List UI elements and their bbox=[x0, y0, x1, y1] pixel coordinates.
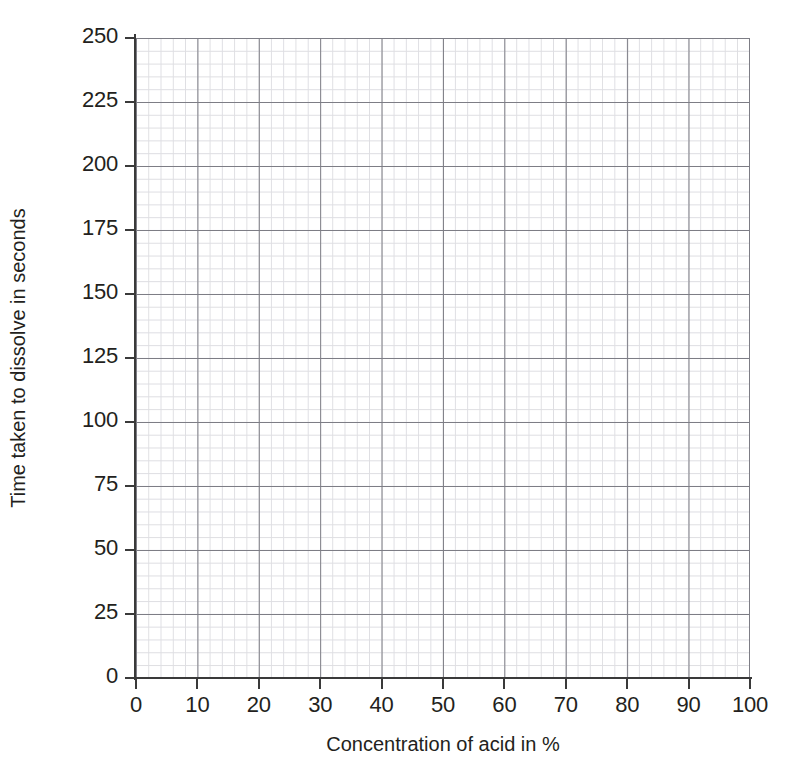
y-tick-mark bbox=[125, 229, 136, 231]
y-tick-label: 150 bbox=[40, 279, 118, 305]
y-tick-label: 50 bbox=[40, 535, 118, 561]
y-tick-mark bbox=[125, 293, 136, 295]
x-tick-label: 100 bbox=[710, 692, 789, 718]
x-tick-mark bbox=[258, 678, 260, 689]
plot-area[interactable] bbox=[136, 38, 750, 678]
y-tick-label: 125 bbox=[40, 343, 118, 369]
y-tick-label: 25 bbox=[40, 599, 118, 625]
x-tick-mark bbox=[442, 678, 444, 689]
y-tick-label: 225 bbox=[40, 87, 118, 113]
scan-edge-artifact bbox=[0, 0, 789, 6]
y-tick-mark bbox=[125, 421, 136, 423]
y-tick-label: 175 bbox=[40, 215, 118, 241]
y-tick-label: 75 bbox=[40, 471, 118, 497]
x-tick-mark bbox=[381, 678, 383, 689]
x-tick-mark bbox=[135, 678, 137, 689]
y-tick-mark bbox=[125, 549, 136, 551]
y-tick-mark bbox=[125, 613, 136, 615]
y-tick-mark bbox=[125, 165, 136, 167]
major-gridlines bbox=[136, 38, 750, 678]
x-axis-line bbox=[126, 677, 752, 679]
x-tick-mark bbox=[688, 678, 690, 689]
x-axis-label: Concentration of acid in % bbox=[136, 733, 750, 756]
y-tick-label: 250 bbox=[40, 23, 118, 49]
y-axis-label: Time taken to dissolve in seconds bbox=[7, 208, 30, 507]
x-tick-mark bbox=[196, 678, 198, 689]
y-tick-mark bbox=[125, 37, 136, 39]
x-tick-mark bbox=[749, 678, 751, 689]
chart-figure: Time taken to dissolve in seconds Concen… bbox=[0, 0, 789, 779]
x-tick-mark bbox=[503, 678, 505, 689]
x-tick-mark bbox=[565, 678, 567, 689]
y-tick-mark bbox=[125, 101, 136, 103]
y-tick-mark bbox=[125, 357, 136, 359]
y-tick-label: 200 bbox=[40, 151, 118, 177]
y-tick-mark bbox=[125, 485, 136, 487]
y-tick-label: 0 bbox=[40, 663, 118, 689]
y-tick-label: 100 bbox=[40, 407, 118, 433]
x-tick-mark bbox=[626, 678, 628, 689]
x-tick-mark bbox=[319, 678, 321, 689]
